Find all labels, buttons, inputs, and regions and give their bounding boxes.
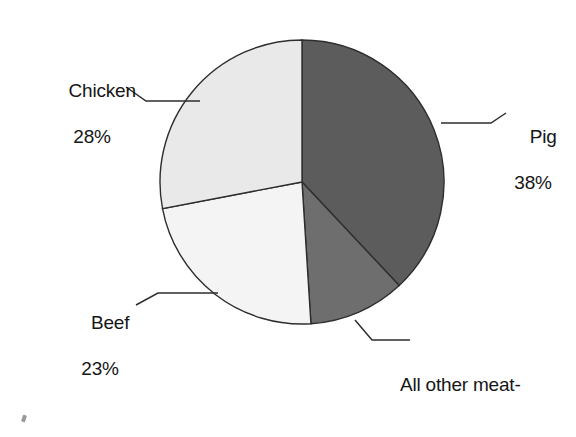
slice-label-beef-name: Beef (91, 312, 129, 333)
pie-chart: Chicken 28% Pig 38% Beef 23% All other m… (0, 0, 576, 437)
slice-label-all-other: All other meat- producing species 11% (400, 327, 568, 437)
pie-slice-chicken[interactable] (160, 40, 302, 209)
slice-label-beef-percent: 23% (58, 357, 142, 380)
leader-line-beef (136, 293, 218, 305)
slice-label-pig-percent: 38% (498, 171, 568, 194)
slice-label-all-other-line1: All other meat- (400, 373, 568, 396)
slice-label-pig-name: Pig (530, 126, 557, 147)
slice-label-beef: Beef 23% (58, 288, 142, 426)
slice-label-chicken: Chicken 28% (34, 56, 150, 194)
slice-label-chicken-name: Chicken (69, 80, 136, 101)
slice-label-chicken-percent: 28% (34, 125, 150, 148)
slice-label-pig: Pig 38% (498, 102, 568, 240)
leader-line-pig (441, 113, 506, 123)
